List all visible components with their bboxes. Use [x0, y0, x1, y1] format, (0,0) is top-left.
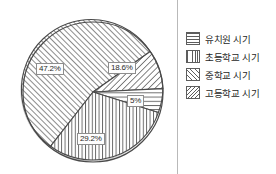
legend-swatch-diagonal-forward-lines-icon [186, 68, 200, 81]
legend-label-middle-school: 중학교 시기 [205, 68, 251, 82]
legend-swatch-diagonal-backward-lines-icon [186, 86, 200, 99]
legend-item-kindergarten: 유치원 시기 [186, 31, 260, 46]
chart-legend: 유치원 시기 초등학교 시기 중학교 시기 고등학교 시기 [177, 0, 276, 174]
pie-chart-svg [0, 0, 176, 174]
pie-data-label-kindergarten: 5% [127, 95, 144, 107]
pie-data-label-elementary-school: 29.2% [77, 133, 105, 145]
legend-swatch-vertical-lines-icon [186, 50, 200, 63]
legend-item-elementary-school: 초등학교 시기 [186, 49, 260, 64]
pie-data-label-high-school: 47.2% [36, 63, 64, 75]
legend-item-middle-school: 중학교 시기 [186, 67, 260, 82]
pie-chart-figure: 47.2% 18.6% 5% 29.2% 유치원 시기 초등학교 시기 중학교 … [0, 0, 276, 174]
legend-label-kindergarten: 유치원 시기 [205, 32, 251, 46]
pie-chart-plot-area: 47.2% 18.6% 5% 29.2% [0, 0, 176, 174]
legend-item-list: 유치원 시기 초등학교 시기 중학교 시기 고등학교 시기 [186, 31, 260, 100]
pie-data-label-middle-school: 18.6% [108, 62, 136, 74]
legend-item-high-school: 고등학교 시기 [186, 85, 260, 100]
legend-label-high-school: 고등학교 시기 [205, 86, 260, 100]
legend-swatch-horizontal-lines-icon [186, 32, 200, 45]
legend-label-elementary-school: 초등학교 시기 [205, 50, 260, 64]
